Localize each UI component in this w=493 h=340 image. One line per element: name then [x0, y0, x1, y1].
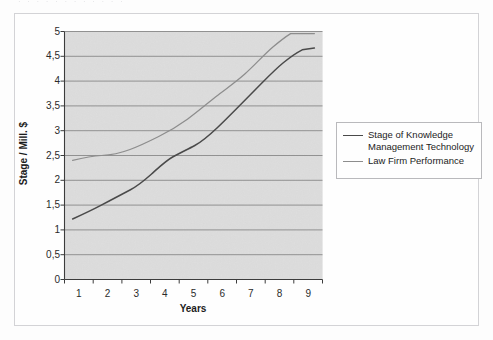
x-tick-9: 9 — [298, 289, 318, 299]
x-tick-8: 8 — [270, 289, 290, 299]
x-tick-4: 4 — [155, 289, 175, 299]
chart-figure: · · · · · · · · · · · · — [0, 0, 493, 340]
x-tick-1: 1 — [69, 289, 89, 299]
legend-swatch-law-firm-performance — [343, 161, 363, 162]
x-tick-6: 6 — [212, 289, 232, 299]
legend-label-stage-of-knowledge: Stage of Knowledge Management Technology — [368, 129, 474, 152]
x-tick-2: 2 — [98, 289, 118, 299]
legend-item-stage-of-knowledge[interactable]: Stage of Knowledge Management Technology — [343, 129, 474, 152]
x-tick-5: 5 — [184, 289, 204, 299]
x-tick-3: 3 — [126, 289, 146, 299]
y-axis-title: Stage / Mill. $ — [18, 104, 29, 204]
legend-label-law-firm-performance: Law Firm Performance — [368, 155, 464, 167]
x-tick-7: 7 — [241, 289, 261, 299]
x-axis-title: Years — [64, 303, 322, 314]
legend-swatch-stage-of-knowledge — [343, 135, 363, 136]
legend-item-law-firm-performance[interactable]: Law Firm Performance — [343, 155, 464, 167]
chart-legend: Stage of Knowledge Management Technology… — [336, 122, 482, 179]
